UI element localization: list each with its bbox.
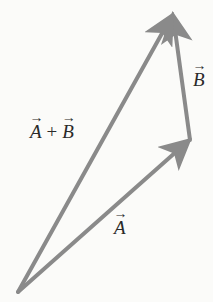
vector-b-symbol: → B: [193, 70, 205, 89]
vector-sum-label: → A + → B: [30, 122, 74, 141]
vector-arrow-icon: →: [29, 111, 43, 125]
vector-b-label: → B: [193, 70, 205, 89]
vector-b-symbol: → B: [62, 122, 74, 141]
vector-diagram: [0, 0, 213, 302]
vector-a-symbol: → A: [30, 122, 42, 141]
vector-arrow-icon: →: [62, 111, 76, 125]
vector-sum-arrow: [18, 19, 170, 292]
plus-operator: +: [47, 121, 58, 142]
vector-b-arrow: [174, 19, 191, 140]
vector-arrow-icon: →: [113, 207, 127, 221]
vector-a-arrow: [18, 143, 186, 292]
vector-a-symbol: → A: [114, 218, 126, 237]
vector-a-label: → A: [114, 218, 126, 237]
vector-arrow-icon: →: [192, 59, 206, 73]
